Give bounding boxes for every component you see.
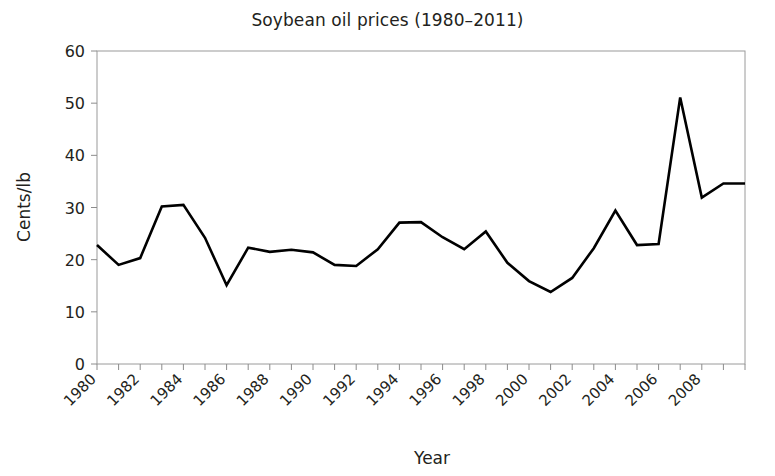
x-tick-label: 1980 [60,370,100,410]
x-axis-tick-labels: 1980198219841986198819901992199419961998… [60,370,705,410]
x-tick-label: 1986 [190,370,230,410]
y-axis-title: Cents/lb [14,172,34,242]
y-tick-label: 40 [65,146,85,165]
x-axis-title: Year [413,448,450,468]
plot-frame [97,51,745,364]
x-tick-label: 1990 [276,370,316,410]
chart-page: Soybean oil prices (1980–2011) 010203040… [0,0,775,476]
plot-area-border [97,51,745,364]
x-tick-label: 2006 [622,370,662,410]
y-tick-label: 20 [65,251,85,270]
y-axis-ticks [91,51,97,364]
data-series-line [97,97,745,292]
x-tick-label: 2002 [535,370,575,410]
x-tick-label: 2004 [578,370,618,410]
x-tick-label: 1994 [362,370,402,410]
x-tick-label: 1992 [319,370,359,410]
x-tick-label: 1982 [103,370,143,410]
x-tick-label: 1984 [146,370,186,410]
x-tick-label: 1998 [449,370,489,410]
y-tick-label: 30 [65,199,85,218]
y-tick-label: 0 [75,355,85,374]
line-chart: 0102030405060 19801982198419861988199019… [0,0,775,476]
x-tick-label: 2008 [665,370,705,410]
y-tick-label: 50 [65,94,85,113]
x-tick-label: 1996 [406,370,446,410]
y-tick-label: 60 [65,42,85,61]
x-tick-label: 2000 [492,370,532,410]
y-axis-tick-labels: 0102030405060 [65,42,85,374]
x-tick-label: 1988 [233,370,273,410]
x-axis-ticks [97,364,745,370]
y-tick-label: 10 [65,303,85,322]
